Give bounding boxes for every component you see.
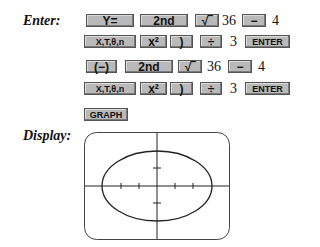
x-squared-key[interactable]: x² bbox=[140, 82, 167, 95]
value-4: 4 bbox=[258, 60, 265, 74]
enter-key[interactable]: ENTER bbox=[245, 82, 290, 95]
divide-key[interactable]: ÷ bbox=[200, 82, 222, 95]
minus-key[interactable]: − bbox=[228, 60, 252, 73]
value-3: 3 bbox=[230, 82, 237, 96]
close-paren-key[interactable]: ) bbox=[170, 35, 193, 48]
second-key[interactable]: 2nd bbox=[125, 60, 173, 73]
sqrt-icon: √‾ bbox=[202, 14, 213, 28]
sqrt-icon: √‾ bbox=[185, 60, 196, 74]
divide-key[interactable]: ÷ bbox=[200, 35, 222, 48]
close-paren-key[interactable]: ) bbox=[170, 82, 193, 95]
value-4: 4 bbox=[272, 14, 279, 28]
value-36: 36 bbox=[207, 60, 221, 74]
x-squared-key[interactable]: x² bbox=[140, 35, 167, 48]
enter-label: Enter: bbox=[23, 13, 60, 29]
value-36: 36 bbox=[222, 14, 236, 28]
y-equals-key[interactable]: Y= bbox=[86, 14, 134, 27]
value-3: 3 bbox=[230, 35, 237, 49]
xt-theta-n-key[interactable]: X,T,θ,n bbox=[84, 82, 136, 95]
graph-key[interactable]: GRAPH bbox=[84, 108, 128, 121]
sqrt-key[interactable]: √‾ bbox=[195, 14, 219, 27]
calculator-display bbox=[84, 132, 230, 240]
minus-key[interactable]: − bbox=[242, 14, 266, 27]
sqrt-key[interactable]: √‾ bbox=[178, 60, 202, 73]
xt-theta-n-key[interactable]: X,T,θ,n bbox=[84, 35, 136, 48]
negative-key[interactable]: (−) bbox=[86, 60, 117, 73]
enter-key[interactable]: ENTER bbox=[245, 35, 290, 48]
second-key[interactable]: 2nd bbox=[140, 14, 188, 27]
display-label: Display: bbox=[23, 128, 71, 144]
